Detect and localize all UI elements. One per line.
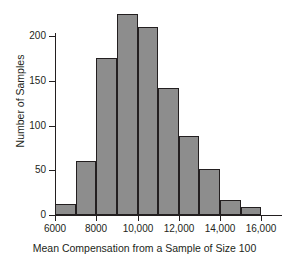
x-tick-mark <box>96 216 97 221</box>
x-tick-mark <box>261 216 262 221</box>
histogram-bar <box>96 58 117 215</box>
x-tick-label: 14,000 <box>200 224 240 234</box>
histogram-bar <box>179 136 200 215</box>
x-axis-title: Mean Compensation from a Sample of Size … <box>0 242 289 254</box>
x-tick-label: 16,000 <box>241 224 281 234</box>
histogram-bar <box>138 27 159 215</box>
x-tick-mark <box>55 216 56 221</box>
y-axis-title: Number of Samples <box>14 31 26 171</box>
x-tick-mark <box>179 216 180 221</box>
histogram-bar <box>158 88 179 215</box>
histogram-bar <box>76 161 97 215</box>
histogram-bar <box>220 200 241 215</box>
histogram-bars <box>55 10 282 216</box>
y-tick-label: 0 <box>20 210 46 220</box>
x-tick-label: 8000 <box>76 224 116 234</box>
histogram-bar <box>55 204 76 215</box>
x-tick-label: 10,000 <box>118 224 158 234</box>
x-tick-label: 6000 <box>35 224 75 234</box>
x-tick-label: 12,000 <box>159 224 199 234</box>
histogram-bar <box>117 14 138 215</box>
histogram-chart: 050100150200 6000800010,00012,00014,0001… <box>0 0 289 265</box>
histogram-bar <box>241 207 262 215</box>
histogram-bar <box>199 169 220 215</box>
x-tick-mark <box>220 216 221 221</box>
x-tick-mark <box>138 216 139 221</box>
